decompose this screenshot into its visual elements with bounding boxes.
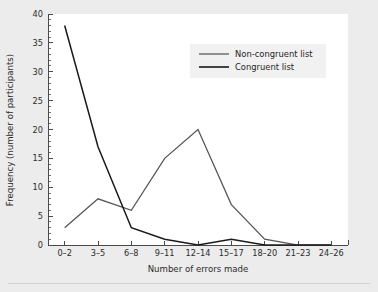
y-tick-label: 40 xyxy=(33,9,43,19)
x-tick-label: 3–5 xyxy=(91,248,106,258)
chart-legend: Non-congruent listCongruent list xyxy=(190,44,326,78)
x-tick-label: 21–23 xyxy=(286,248,311,258)
x-tick-label: 15–17 xyxy=(219,248,244,258)
y-tick-label: 10 xyxy=(33,182,43,192)
y-tick-label: 15 xyxy=(33,153,43,163)
x-tick-label: 24–26 xyxy=(319,248,344,258)
y-tick-label: 30 xyxy=(33,67,43,77)
y-tick-label: 35 xyxy=(33,38,43,48)
x-tick-label: 6–8 xyxy=(124,248,139,258)
x-tick-label: 9–11 xyxy=(155,248,175,258)
legend-label-1: Non-congruent list xyxy=(235,49,313,59)
legend-label-2: Congruent list xyxy=(235,62,295,72)
y-axis-title: Frequency (number of participants) xyxy=(5,54,15,206)
line-chart: 0510152025303540 0–23–56–89–1112–1415–17… xyxy=(0,0,378,292)
y-tick-label: 0 xyxy=(38,240,43,250)
x-tick-label: 18–20 xyxy=(252,248,277,258)
x-tick-label: 0–2 xyxy=(57,248,72,258)
x-tick-label: 12–14 xyxy=(186,248,211,258)
y-tick-label: 5 xyxy=(38,211,43,221)
y-tick-label: 25 xyxy=(33,96,43,106)
x-axis-title: Number of errors made xyxy=(148,264,249,274)
figure-container: 0510152025303540 0–23–56–89–1112–1415–17… xyxy=(0,0,378,292)
y-tick-label: 20 xyxy=(33,125,43,135)
